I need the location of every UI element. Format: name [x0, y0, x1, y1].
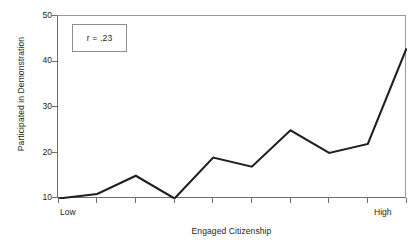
x-tick-mark	[367, 198, 368, 203]
y-tick-label: 50	[30, 11, 52, 20]
correlation-annotation-box: r = .23	[72, 24, 127, 52]
x-tick-mark	[58, 198, 59, 203]
x-tick-mark	[174, 198, 175, 203]
y-tick-label: 40	[30, 56, 52, 65]
x-axis-tick-marks	[57, 198, 406, 204]
data-line	[59, 48, 407, 198]
y-axis-tick-labels: 50 40 30 20 10	[30, 0, 52, 248]
x-tick-mark	[96, 198, 97, 203]
x-axis-low-label: Low	[60, 207, 76, 217]
x-tick-mark	[406, 198, 407, 203]
x-tick-mark	[251, 198, 252, 203]
x-axis-title: Engaged Citizenship	[57, 226, 406, 236]
chart-figure: Participated in Demonstration 50 40 30 2…	[0, 0, 419, 248]
x-tick-mark	[328, 198, 329, 203]
correlation-annotation-label: r = .23	[87, 33, 113, 43]
x-axis-high-label: High	[374, 207, 391, 217]
x-tick-mark	[290, 198, 291, 203]
y-tick-label: 30	[30, 102, 52, 111]
x-tick-mark	[135, 198, 136, 203]
x-tick-mark	[212, 198, 213, 203]
y-axis-title: Participated in Demonstration	[14, 0, 28, 194]
y-tick-label: 10	[30, 193, 52, 202]
y-tick-label: 20	[30, 148, 52, 157]
